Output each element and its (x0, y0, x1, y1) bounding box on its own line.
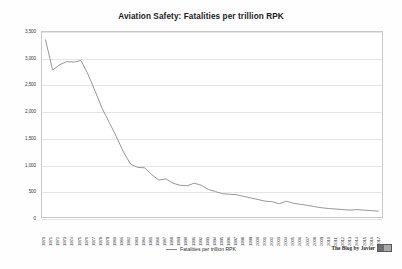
x-axis-tick-label: 1987 (162, 237, 167, 246)
y-axis-tick-label: 1,500 (25, 135, 36, 140)
x-axis-tick-label: 2007 (305, 237, 310, 246)
y-axis-tick-label: 2,000 (25, 109, 36, 114)
x-axis-tick-label: 1986 (155, 237, 160, 246)
x-axis-tick-label: 1985 (148, 237, 153, 246)
x-axis-tick-label: 1980 (112, 237, 117, 246)
x-axis-tick-label: 2009 (319, 237, 324, 246)
x-axis-tick-label: 1989 (176, 237, 181, 246)
x-axis-tick-label: 1976 (84, 237, 89, 246)
x-axis-tick-label: 1972 (55, 237, 60, 246)
x-axis-tick-label: 1983 (134, 237, 139, 246)
plot-area (41, 31, 383, 218)
x-axis-tick-label: 1975 (77, 237, 82, 246)
x-axis-tick-label: 1995 (219, 237, 224, 246)
attribution-text: The Blog by Javier (331, 245, 375, 251)
x-axis-tick-label: 2004 (283, 237, 288, 246)
x-axis-tick-label: 1979 (105, 237, 110, 246)
x-axis-tick-label: 1988 (169, 237, 174, 246)
legend-label: Fatalities per trillion RPK (180, 246, 236, 252)
y-axis-tick-label: 1,000 (25, 162, 36, 167)
x-axis-tick-label: 1973 (62, 237, 67, 246)
x-axis-tick-label: 1974 (69, 237, 74, 246)
y-axis-tick-label: 3,500 (25, 29, 36, 34)
x-axis-tick-label: 1993 (205, 237, 210, 246)
x-axis-tick-label: 1981 (119, 237, 124, 246)
x-axis-tick-label: 1992 (198, 237, 203, 246)
x-axis-tick-label: 1990 (183, 237, 188, 246)
x-axis-tick-label: 1982 (126, 237, 131, 246)
x-axis-tick-label: 2002 (269, 237, 274, 246)
series-line-chart (42, 32, 382, 217)
x-axis-tick-label: 1977 (91, 237, 96, 246)
series-fatalities-line (46, 40, 379, 211)
x-axis-labels: 1970197119721973197419751976197719781979… (41, 220, 383, 246)
x-axis-tick-label: 1970 (41, 237, 46, 246)
x-axis-tick-label: 1984 (141, 237, 146, 246)
y-axis-tick-label: 500 (29, 189, 36, 194)
x-axis-tick-label: 1991 (191, 237, 196, 246)
x-axis-tick-label: 2006 (297, 237, 302, 246)
x-axis-tick-label: 1997 (233, 237, 238, 246)
attribution: The Blog by Javier (331, 244, 392, 252)
x-axis-tick-label: 2010 (326, 237, 331, 246)
x-axis-tick-label: 1999 (248, 237, 253, 246)
x-axis-tick-label: 2001 (262, 237, 267, 246)
chart-title: Aviation Safety: Fatalities per trillion… (0, 12, 402, 21)
x-axis-tick-label: 1994 (212, 237, 217, 246)
x-axis-tick-label: 2000 (255, 237, 260, 246)
y-axis-labels: 05001,0001,5002,0002,5003,0003,500 (0, 31, 39, 218)
blog-logo-icon (377, 244, 392, 252)
x-axis-tick-label: 1998 (240, 237, 245, 246)
x-axis-tick-label: 1978 (98, 237, 103, 246)
x-axis-tick-label: 2005 (290, 237, 295, 246)
chart-card: Aviation Safety: Fatalities per trillion… (0, 0, 402, 269)
y-axis-tick-label: 2,500 (25, 82, 36, 87)
x-axis-tick-label: 2008 (312, 237, 317, 246)
x-axis-tick-label: 2003 (276, 237, 281, 246)
x-axis-tick-label: 1996 (226, 237, 231, 246)
y-axis-tick-label: 3,000 (25, 55, 36, 60)
legend-line-swatch (166, 249, 177, 250)
x-axis-tick-label: 1971 (48, 237, 53, 246)
y-axis-tick-label: 0 (34, 216, 36, 221)
